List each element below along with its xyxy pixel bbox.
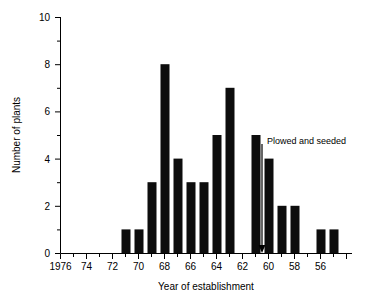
x-tick-label: 70 bbox=[133, 261, 145, 272]
bar bbox=[291, 206, 300, 253]
y-tick-labels: 0 2 4 6 8 10 bbox=[39, 12, 51, 259]
bar bbox=[122, 229, 131, 253]
bar bbox=[265, 159, 274, 253]
bar bbox=[252, 135, 261, 253]
x-tick-label: 56 bbox=[315, 261, 327, 272]
bar bbox=[135, 229, 144, 253]
y-tick-label: 10 bbox=[39, 12, 51, 23]
y-axis-title: Number of plants bbox=[11, 97, 22, 173]
y-tick-label: 0 bbox=[44, 248, 50, 259]
bar bbox=[148, 182, 157, 253]
y-axis-minor-ticks bbox=[57, 41, 61, 230]
x-tick-label: 66 bbox=[185, 261, 197, 272]
histogram-plot: 0 2 4 6 8 10 bbox=[0, 0, 367, 298]
bar bbox=[174, 159, 183, 253]
bar bbox=[187, 182, 196, 253]
x-tick-label: 68 bbox=[159, 261, 171, 272]
bar bbox=[330, 229, 339, 253]
bar bbox=[317, 229, 326, 253]
x-tick-labels: 1976 74 72 70 68 66 64 62 60 58 56 bbox=[49, 261, 326, 272]
y-tick-label: 2 bbox=[44, 201, 50, 212]
y-tick-label: 6 bbox=[44, 106, 50, 117]
x-tick-label: 62 bbox=[237, 261, 249, 272]
chart-figure: 0 2 4 6 8 10 bbox=[0, 0, 367, 298]
x-axis-title: Year of establishment bbox=[158, 281, 254, 292]
y-tick-label: 8 bbox=[44, 59, 50, 70]
y-tick-label: 4 bbox=[44, 154, 50, 165]
x-tick-label: 60 bbox=[263, 261, 275, 272]
bar bbox=[226, 88, 235, 253]
x-tick-label: 72 bbox=[107, 261, 119, 272]
x-tick-label: 64 bbox=[211, 261, 223, 272]
plowed-and-seeded-label: Plowed and seeded bbox=[267, 136, 346, 146]
bar bbox=[200, 182, 209, 253]
bar bbox=[213, 135, 222, 253]
bar bbox=[278, 206, 287, 253]
bars-group bbox=[122, 64, 339, 253]
bar bbox=[161, 64, 170, 253]
x-tick-label: 1976 bbox=[49, 261, 72, 272]
x-tick-label: 74 bbox=[81, 261, 93, 272]
x-tick-label: 58 bbox=[289, 261, 301, 272]
